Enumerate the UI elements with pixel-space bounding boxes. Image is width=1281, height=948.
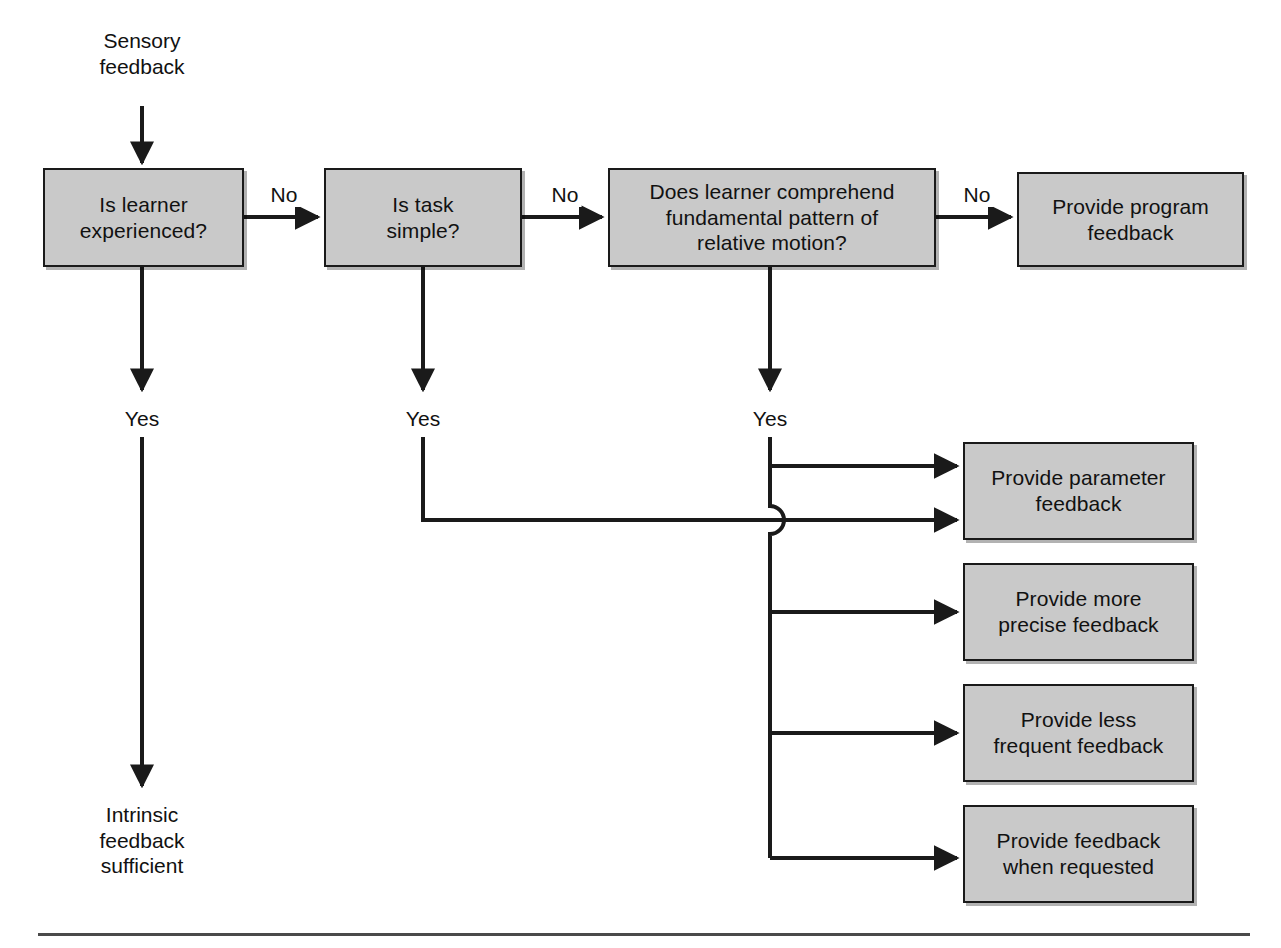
edge-label-yes-task: Yes: [403, 406, 443, 431]
node-provide-more-precise-feedback[interactable]: Provide more precise feedback: [963, 563, 1194, 661]
node-provide-less-frequent-feedback[interactable]: Provide less frequent feedback: [963, 684, 1194, 782]
node-is-task-simple[interactable]: Is task simple?: [324, 168, 522, 267]
node-does-learner-comprehend[interactable]: Does learner comprehend fundamental patt…: [608, 168, 936, 267]
footer-divider: [38, 933, 1250, 936]
edge-comprehend-yes-trunk: [770, 437, 784, 858]
flowchart-canvas: Is task simple? --> Does learner compreh…: [0, 0, 1281, 948]
edge-label-yes-comprehend: Yes: [750, 406, 790, 431]
edge-label-no-learner-to-task: No: [268, 182, 301, 207]
node-provide-parameter-feedback[interactable]: Provide parameter feedback: [963, 442, 1194, 540]
terminal-label-intrinsic-feedback: Intrinsic feedback sufficient: [32, 802, 252, 879]
entry-label-sensory-feedback: Sensory feedback: [42, 28, 242, 79]
edge-task-yes-to-parameter: [423, 437, 957, 520]
node-provide-feedback-when-requested[interactable]: Provide feedback when requested: [963, 805, 1194, 903]
node-is-learner-experienced[interactable]: Is learner experienced?: [43, 168, 244, 267]
edge-label-yes-learner: Yes: [122, 406, 162, 431]
node-provide-program-feedback[interactable]: Provide program feedback: [1017, 172, 1244, 267]
edge-label-no-comprehend-to-program: No: [961, 182, 994, 207]
edge-label-no-task-to-comprehend: No: [549, 182, 582, 207]
